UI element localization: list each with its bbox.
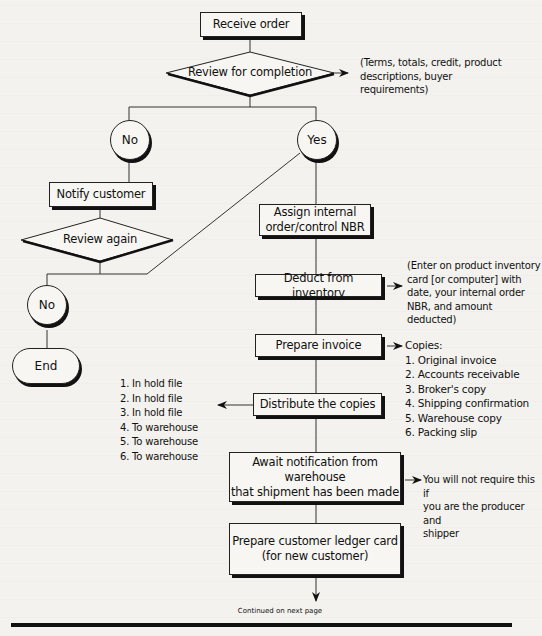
note-inventory-line: card [or computer] with <box>407 273 542 287</box>
process-assign-line2: order/control NBR <box>265 220 364 235</box>
process-deduct-inventory: Deduct from inventory <box>255 274 382 297</box>
process-assign-internal-nbr: Assign internal order/control NBR <box>259 204 371 236</box>
note-review-criteria-line: descriptions, buyer <box>360 70 501 84</box>
note-review-criteria: (Terms, totals, credit, product descript… <box>360 56 501 97</box>
note-inventory-line: date, your internal order <box>407 286 542 300</box>
note-copies: Copies: 1. Original invoice 2. Accounts … <box>405 338 529 440</box>
process-receive-order: Receive order <box>200 12 302 37</box>
branch-yes-label: Yes <box>307 133 326 147</box>
note-producer-line: shipper <box>423 527 542 541</box>
note-producer-line: you are the producer and <box>423 500 542 527</box>
process-ledger-line1: Prepare customer ledger card <box>232 534 398 549</box>
note-copies-item: 3. Broker's copy <box>405 382 529 397</box>
note-copies-item: 5. Warehouse copy <box>405 411 529 426</box>
process-assign-line1: Assign internal <box>274 205 356 220</box>
process-deduct-inventory-label: Deduct from inventory <box>256 271 381 301</box>
decision-review-for-completion-label: Review for completion <box>180 65 320 79</box>
note-copies-item: 1. Original invoice <box>405 353 529 368</box>
note-distribution: 1. In hold file 2. In hold file 3. In ho… <box>120 377 198 464</box>
branch-no-label: No <box>122 133 138 147</box>
process-distribute-copies-label: Distribute the copies <box>260 397 376 412</box>
note-distribution-item: 3. In hold file <box>120 406 198 421</box>
note-distribution-item: 4. To warehouse <box>120 421 198 436</box>
branch-no: No <box>110 120 150 160</box>
note-inventory: (Enter on product inventory card [or com… <box>407 259 542 327</box>
process-notify-customer: Notify customer <box>49 182 153 207</box>
process-prepare-invoice: Prepare invoice <box>255 334 382 357</box>
note-producer-line: You will not require this if <box>423 473 542 500</box>
note-distribution-item: 2. In hold file <box>120 392 198 407</box>
decision-review-again-label: Review again <box>40 232 160 246</box>
note-review-criteria-line: requirements) <box>360 83 501 97</box>
note-copies-item: 6. Packing slip <box>405 425 529 440</box>
terminal-end-label: End <box>35 359 58 373</box>
note-distribution-item: 1. In hold file <box>120 377 198 392</box>
process-await-line1: Await notification from warehouse <box>230 455 400 485</box>
process-await-line2: that shipment has been made <box>231 485 399 500</box>
note-distribution-item: 5. To warehouse <box>120 435 198 450</box>
continued-label: Continued on next page <box>0 607 542 615</box>
note-producer: You will not require this if you are the… <box>423 473 542 541</box>
note-copies-title: Copies: <box>405 338 529 353</box>
process-prepare-ledger-card: Prepare customer ledger card (for new cu… <box>229 523 401 575</box>
branch-no-2-label: No <box>39 298 55 312</box>
note-distribution-item: 6. To warehouse <box>120 450 198 465</box>
process-receive-order-label: Receive order <box>213 17 290 32</box>
process-distribute-copies: Distribute the copies <box>253 393 382 416</box>
process-notify-customer-label: Notify customer <box>57 187 146 202</box>
branch-yes: Yes <box>297 120 337 160</box>
process-ledger-line2: (for new customer) <box>262 549 368 564</box>
note-copies-item: 4. Shipping confirmation <box>405 396 529 411</box>
terminal-end: End <box>12 348 80 384</box>
process-prepare-invoice-label: Prepare invoice <box>276 338 362 353</box>
note-copies-item: 2. Accounts receivable <box>405 367 529 382</box>
note-review-criteria-line: (Terms, totals, credit, product <box>360 56 501 70</box>
note-inventory-line: (Enter on product inventory <box>407 259 542 273</box>
branch-no-2: No <box>27 285 67 325</box>
process-await-notification: Await notification from warehouse that s… <box>229 452 401 502</box>
bottom-rule <box>11 623 512 627</box>
note-inventory-line: NBR, and amount deducted) <box>407 300 542 327</box>
